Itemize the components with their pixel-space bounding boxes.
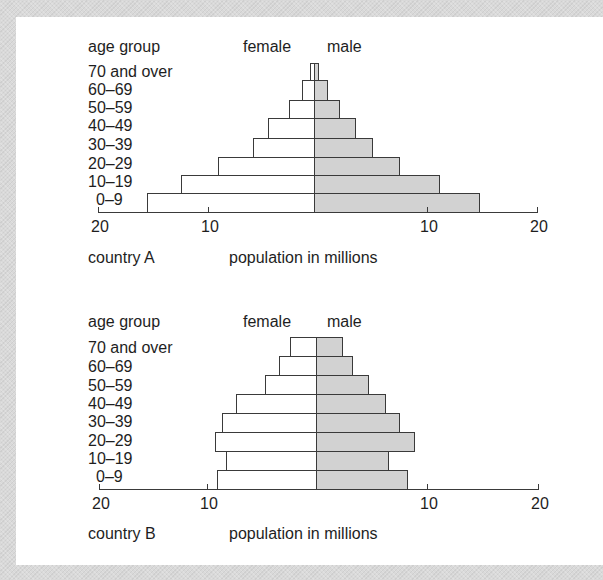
female-bar bbox=[181, 175, 314, 194]
center-line bbox=[316, 337, 317, 490]
male-bar bbox=[315, 193, 480, 213]
male-bar bbox=[315, 63, 319, 81]
tick-label: 10 bbox=[420, 219, 438, 235]
age-label: 40–49 bbox=[88, 118, 133, 134]
male-bar bbox=[317, 470, 408, 490]
center-line bbox=[314, 63, 315, 213]
female-header: female bbox=[243, 39, 291, 55]
female-bar bbox=[279, 356, 316, 376]
female-bar bbox=[236, 394, 316, 414]
female-bar bbox=[290, 337, 316, 357]
age-label: 20–29 bbox=[88, 433, 133, 449]
pyramid-country-b: age group female male 70 and over 60–69 … bbox=[16, 292, 603, 552]
male-bar bbox=[317, 375, 369, 395]
tick bbox=[427, 484, 428, 489]
age-label: 10–19 bbox=[88, 451, 133, 467]
age-label: 70 and over bbox=[88, 64, 173, 80]
female-header: female bbox=[243, 314, 291, 330]
tick bbox=[98, 207, 99, 212]
tick bbox=[427, 207, 428, 212]
tick-label: 20 bbox=[92, 496, 110, 512]
female-bar bbox=[218, 157, 314, 176]
tick-label: 10 bbox=[420, 496, 438, 512]
tick bbox=[99, 484, 100, 489]
age-label: 40–49 bbox=[88, 396, 133, 412]
male-bar bbox=[315, 80, 328, 101]
female-bar bbox=[268, 118, 314, 139]
male-bar bbox=[317, 432, 415, 452]
age-label: 60–69 bbox=[88, 82, 133, 98]
x-axis-title: population in millions bbox=[229, 526, 378, 542]
tick bbox=[208, 207, 209, 212]
female-bar bbox=[226, 451, 316, 471]
male-bar bbox=[317, 451, 389, 471]
male-bar bbox=[317, 394, 386, 414]
female-bar bbox=[222, 413, 316, 433]
pyramid-country-a: age group female male 70 and over 60–69 … bbox=[16, 17, 603, 277]
female-bar bbox=[217, 470, 316, 490]
age-label: 30–39 bbox=[88, 137, 133, 153]
age-group-header: age group bbox=[88, 314, 160, 330]
age-label: 50–59 bbox=[88, 378, 133, 394]
male-bar bbox=[317, 413, 400, 433]
age-label: 10–19 bbox=[88, 174, 133, 190]
female-bar bbox=[147, 193, 314, 213]
x-axis bbox=[99, 489, 539, 490]
tick-label: 20 bbox=[531, 496, 549, 512]
female-bar bbox=[253, 138, 314, 158]
female-bar bbox=[289, 100, 314, 119]
male-bar bbox=[315, 175, 440, 194]
female-bar bbox=[215, 432, 316, 452]
male-bar bbox=[317, 356, 353, 376]
tick bbox=[538, 484, 539, 489]
age-label: 0–9 bbox=[96, 469, 123, 485]
age-label: 60–69 bbox=[88, 359, 133, 375]
figure-panel: age group female male 70 and over 60–69 … bbox=[16, 17, 603, 565]
tick-label: 10 bbox=[200, 496, 218, 512]
age-label: 50–59 bbox=[88, 100, 133, 116]
tick bbox=[207, 484, 208, 489]
male-header: male bbox=[327, 39, 362, 55]
age-label: 70 and over bbox=[88, 340, 173, 356]
x-axis-title: population in millions bbox=[229, 250, 378, 266]
male-bar bbox=[315, 157, 400, 176]
tick-label: 20 bbox=[91, 219, 109, 235]
male-bar bbox=[315, 118, 356, 139]
age-label: 30–39 bbox=[88, 414, 133, 430]
male-bar bbox=[315, 100, 340, 119]
tick-label: 20 bbox=[530, 219, 548, 235]
male-bar bbox=[317, 337, 343, 357]
female-bar bbox=[302, 80, 314, 101]
country-label: country B bbox=[88, 526, 156, 542]
country-label: country A bbox=[88, 250, 155, 266]
age-label: 20–29 bbox=[88, 156, 133, 172]
age-group-header: age group bbox=[88, 39, 160, 55]
tick bbox=[537, 207, 538, 212]
female-bar bbox=[265, 375, 316, 395]
male-bar bbox=[315, 138, 373, 158]
tick-label: 10 bbox=[201, 219, 219, 235]
x-axis bbox=[98, 212, 538, 213]
age-label: 0–9 bbox=[96, 192, 123, 208]
male-header: male bbox=[327, 314, 362, 330]
